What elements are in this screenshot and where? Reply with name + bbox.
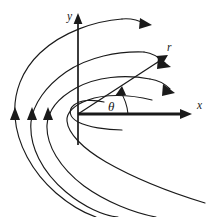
field-line-3-arrowhead: [162, 84, 175, 96]
radial-vector-line: [78, 60, 161, 114]
y-axis-label: y: [66, 10, 73, 23]
field-line-group: [10, 18, 205, 217]
field-line-1-arrowhead: [139, 18, 152, 29]
theta-angle-group: θ: [108, 86, 128, 114]
field-line-2-left-arrowhead: [27, 107, 37, 120]
polar-field-line-diagram: y x r θ: [0, 0, 216, 217]
figure-container: y x r θ: [0, 0, 216, 217]
field-line-3-left-arrowhead: [43, 107, 53, 120]
y-axis-arrowhead: [74, 13, 83, 24]
theta-arc-arrowhead: [115, 86, 126, 96]
y-axis-group: y: [66, 10, 82, 145]
theta-label: θ: [108, 99, 115, 114]
x-axis-arrowhead: [180, 109, 192, 119]
radial-vector-label: r: [167, 41, 172, 53]
field-line-1-left-arrowhead: [10, 107, 20, 120]
x-axis-label: x: [196, 99, 203, 111]
